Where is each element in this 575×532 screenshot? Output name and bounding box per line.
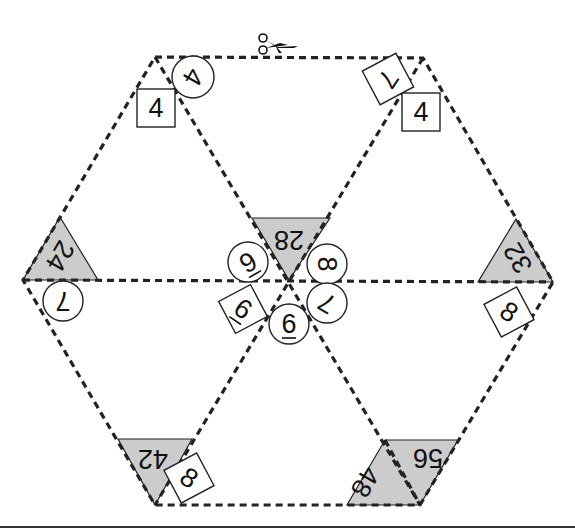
circle-number-tile: 8 [307, 244, 347, 284]
circle-number-tile: 4 [172, 56, 214, 98]
circle-number-tile: 7 [307, 283, 347, 323]
circle-tile-number: 8 [312, 256, 342, 271]
circle-number-tile: 6 [269, 304, 309, 344]
circle-number-tile: 6 [228, 242, 268, 282]
shaded-regions [23, 217, 553, 505]
shaded-region-label: 28 [274, 225, 304, 255]
circle-tile-number: 7 [55, 286, 70, 316]
shaded-region-label: 56 [413, 443, 443, 473]
circle-number-tile: 7 [43, 281, 83, 321]
shaded-region-label: 42 [138, 444, 168, 474]
square-tile-number: 4 [413, 97, 428, 127]
dashed-cut-lines [23, 57, 553, 505]
square-number-tile: 4 [137, 89, 175, 127]
scissors-icon [259, 34, 298, 54]
hexagon-puzzle-diagram: 282432424856 447688468767 [0, 0, 575, 532]
square-number-tile: 6 [219, 285, 268, 334]
interior-cut-line [23, 280, 553, 282]
circle-tile-number: 6 [281, 309, 296, 339]
square-tile-number: 4 [148, 93, 163, 123]
square-number-tile: 4 [402, 93, 440, 131]
